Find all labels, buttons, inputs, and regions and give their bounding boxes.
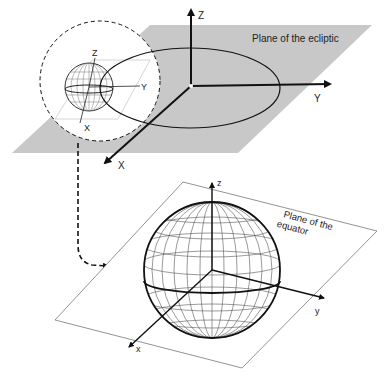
ecliptic-x-label: X — [118, 160, 125, 171]
inset-z-label: Z — [92, 48, 98, 58]
zoom-connector-arrow — [78, 143, 108, 266]
ecliptic-plane-label: Plane of the ecliptic — [252, 33, 339, 44]
ecliptic-z-label: Z — [198, 10, 204, 21]
coordinate-systems-diagram: Plane of the ecliptic Z Y X — [0, 0, 389, 379]
equatorial-x-label: x — [136, 344, 141, 354]
inset-x-label: X — [84, 123, 90, 133]
equatorial-y-label: y — [315, 306, 320, 316]
inset-y-label: Y — [141, 82, 147, 92]
ecliptic-y-label: Y — [314, 93, 321, 104]
equatorial-z-label: z — [217, 178, 222, 188]
